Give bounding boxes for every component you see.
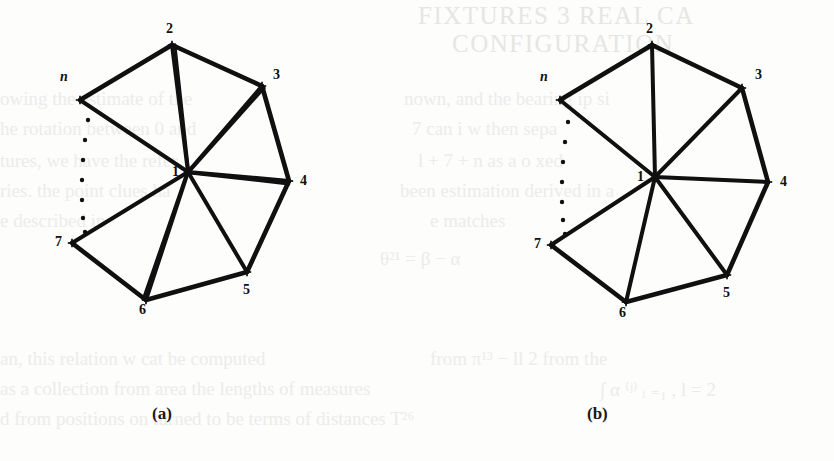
vertex-label-b-5: 5 xyxy=(723,286,730,300)
spoke-edge-1-7 xyxy=(72,172,188,243)
ellipsis-dot-a-4 xyxy=(80,198,84,202)
boundary-edge-4-5 xyxy=(247,181,289,272)
boundary-edge-2-3 xyxy=(172,45,262,86)
vertex-label-b-n: n xyxy=(540,70,548,84)
ellipsis-dot-a-5 xyxy=(81,216,85,220)
ellipsis-dot-a-1 xyxy=(83,138,87,142)
caption-a: (a) xyxy=(152,404,172,424)
boundary-edge-6-7 xyxy=(551,245,626,302)
boundary-edge-3-4 xyxy=(742,88,768,182)
spoke-edge-1-5 xyxy=(188,172,247,272)
vertex-label-b-7: 7 xyxy=(534,237,541,251)
boundary-edge-4-5 xyxy=(727,182,768,275)
boundary-edge-3-4 xyxy=(262,86,289,181)
diagram-panel-a xyxy=(68,41,293,304)
ellipsis-dot-a-2 xyxy=(81,158,85,162)
spoke-edge-1-n xyxy=(560,100,655,177)
ellipsis-dot-b-4 xyxy=(560,200,564,204)
caption-b: (b) xyxy=(587,404,608,424)
spoke-edge-1-6 xyxy=(626,177,655,302)
spoke-edge-1-3 xyxy=(655,88,742,177)
spoke-edge-1-3-ghost xyxy=(189,88,265,173)
figure-page: FIXTURES 3 REAL CACONFIGURATIONowing the… xyxy=(0,0,834,461)
ellipsis-dot-a-3 xyxy=(80,178,84,182)
vertex-label-a-n: n xyxy=(60,70,68,84)
ellipsis-dot-b-5 xyxy=(561,218,565,222)
spoke-edge-1-n xyxy=(80,100,188,172)
ellipsis-dot-a-6 xyxy=(83,230,87,234)
diagram-panel-b xyxy=(547,41,772,306)
vertex-label-b-2: 2 xyxy=(646,22,653,36)
vertex-label-b-3: 3 xyxy=(755,68,762,82)
vertex-label-b-1: 1 xyxy=(637,170,644,184)
ellipsis-dot-b-2 xyxy=(561,160,565,164)
vertex-label-a-1: 1 xyxy=(172,165,179,179)
spoke-edge-1-2-ghost xyxy=(175,45,189,172)
boundary-edge-6-7 xyxy=(72,243,146,300)
ellipsis-dot-b-6 xyxy=(563,232,567,236)
spoke-edge-1-4 xyxy=(655,177,768,182)
boundary-edge-5-6 xyxy=(626,275,727,302)
boundary-edge-5-6 xyxy=(146,272,247,300)
vertex-label-a-5: 5 xyxy=(243,283,250,297)
ellipsis-dot-b-0 xyxy=(566,120,570,124)
ellipsis-dot-b-3 xyxy=(560,180,564,184)
polygon-triangulation-figure xyxy=(0,0,834,461)
vertex-label-b-4: 4 xyxy=(780,175,787,189)
vertex-label-b-6: 6 xyxy=(619,306,626,320)
vertex-label-a-7: 7 xyxy=(55,235,62,249)
boundary-edge-2-3 xyxy=(652,45,742,88)
spoke-edge-1-2 xyxy=(652,45,655,177)
vertex-label-a-2: 2 xyxy=(166,22,173,36)
spoke-edge-1-6-ghost xyxy=(143,172,187,299)
ellipsis-dot-b-1 xyxy=(563,140,567,144)
boundary-edge-n-2 xyxy=(80,45,172,100)
ellipsis-dot-a-0 xyxy=(86,118,90,122)
vertex-label-a-3: 3 xyxy=(273,68,280,82)
vertex-label-a-6: 6 xyxy=(139,303,146,317)
spoke-edge-1-5 xyxy=(655,177,727,275)
boundary-edge-n-2 xyxy=(560,45,652,100)
vertex-label-a-4: 4 xyxy=(300,174,307,188)
